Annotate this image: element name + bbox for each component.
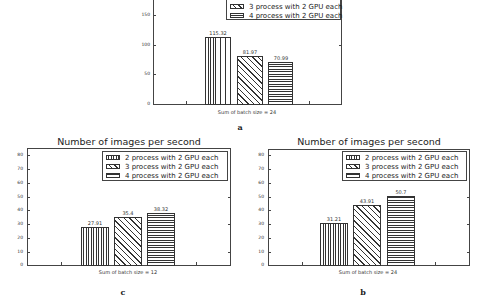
chart-b-ytick-mark xyxy=(268,183,271,184)
chart-c-ytick: 40 xyxy=(9,207,23,212)
chart-a-xtick-mark xyxy=(186,101,187,104)
chart-c-ytick-mark xyxy=(27,238,30,239)
chart-b-ytick-mark xyxy=(268,169,271,170)
chart-c-value-label: 27.91 xyxy=(80,220,110,226)
legend-entry: 4 process with 2 GPU each xyxy=(106,171,224,180)
chart-b-ytick: 60 xyxy=(250,180,264,185)
legend-label: 4 process with 2 GPU each xyxy=(249,12,342,20)
legend-label: 4 process with 2 GPU each xyxy=(125,172,218,180)
chart-b-ytick: 70 xyxy=(250,166,264,171)
legend-label: 3 process with 2 GPU each xyxy=(365,163,458,171)
chart-c-value-label: 35.4 xyxy=(113,210,143,216)
chart-c-ytick-mark xyxy=(228,197,231,198)
legend-entry: 4 process with 2 GPU each xyxy=(346,171,463,180)
chart-b-ytick-mark xyxy=(268,155,271,156)
chart-b-ytick: 40 xyxy=(250,207,264,212)
legend-swatch-horizontal xyxy=(230,13,244,18)
chart-b-value-label: 43.91 xyxy=(352,198,382,204)
legend-entry: 3 process with 2 GPU each xyxy=(346,162,463,171)
legend-entry: 2 process with 2 GPU each xyxy=(106,153,224,162)
chart-b-xtick-mark xyxy=(435,262,436,265)
chart-c-bar-2-process xyxy=(81,227,109,266)
chart-a-ytick-mark xyxy=(153,74,156,75)
chart-a-bar-4-process xyxy=(268,62,293,105)
chart-c-ytick-mark xyxy=(228,224,231,225)
chart-c-xtick-mark xyxy=(196,262,197,265)
chart-b-xlabel: Sum of batch size = 24 xyxy=(318,269,418,275)
chart-b-bar-4-process xyxy=(387,196,415,266)
chart-b-caption: b xyxy=(353,287,373,297)
chart-a-ytick-mark xyxy=(153,45,156,46)
legend-entry: 3 process with 2 GPU each xyxy=(106,162,224,171)
chart-a-xtick-mark xyxy=(309,101,310,104)
chart-a-ytick-mark xyxy=(339,45,342,46)
chart-c-xtick-mark xyxy=(61,262,62,265)
chart-c-ytick-mark xyxy=(27,224,30,225)
chart-a-value-label: 70.99 xyxy=(266,55,296,61)
chart-b-xtick-mark xyxy=(302,262,303,265)
chart-b-ytick-mark xyxy=(467,197,470,198)
legend-entry: 2 process with 2 GPU each xyxy=(346,153,463,162)
chart-b-ytick: 50 xyxy=(250,194,264,199)
chart-a-ytick: 150 xyxy=(136,12,150,17)
chart-b-value-label: 31.21 xyxy=(319,216,349,222)
chart-c-ytick-mark xyxy=(27,197,30,198)
legend-swatch-diagonal xyxy=(230,4,244,9)
chart-c-value-label: 38.32 xyxy=(146,206,176,212)
chart-c-ytick-mark xyxy=(27,155,30,156)
chart-b-ytick: 80 xyxy=(250,152,264,157)
chart-c-ytick: 30 xyxy=(9,221,23,226)
chart-c-ytick-mark xyxy=(27,169,30,170)
legend-swatch-diagonal xyxy=(346,164,360,169)
legend-swatch-vertical xyxy=(106,155,120,160)
chart-b-ytick-mark xyxy=(268,238,271,239)
chart-c-ytick: 80 xyxy=(9,152,23,157)
chart-c-ytick: 0 xyxy=(9,262,23,267)
chart-a-ytick: 50 xyxy=(136,71,150,76)
chart-a-caption: a xyxy=(230,122,250,132)
chart-b-ytick: 20 xyxy=(250,235,264,240)
chart-c-ytick: 10 xyxy=(9,249,23,254)
chart-b-value-label: 50.7 xyxy=(386,189,416,195)
legend-swatch-vertical xyxy=(346,155,360,160)
chart-c-ytick: 60 xyxy=(9,180,23,185)
legend-label: 3 process with 2 GPU each xyxy=(249,3,342,11)
legend-entry: 3 process with 2 GPU each xyxy=(230,2,337,11)
legend-entry: 4 process with 2 GPU each xyxy=(230,11,337,20)
chart-b-ytick: 30 xyxy=(250,221,264,226)
chart-b-ytick-mark xyxy=(268,197,271,198)
legend-label: 4 process with 2 GPU each xyxy=(365,172,458,180)
chart-b-ytick: 0 xyxy=(250,262,264,267)
chart-b-ytick-mark xyxy=(268,210,271,211)
chart-a-ytick: 100 xyxy=(136,42,150,47)
chart-c-ytick-mark xyxy=(27,183,30,184)
chart-a-bar-2-process xyxy=(205,37,231,105)
chart-b-ytick-mark xyxy=(467,224,470,225)
chart-b-ytick-mark xyxy=(268,252,271,253)
legend-label: 2 process with 2 GPU each xyxy=(365,154,458,162)
chart-a-bar-3-process xyxy=(237,56,263,105)
legend-swatch-diagonal xyxy=(106,164,120,169)
legend-label: 2 process with 2 GPU each xyxy=(125,154,218,162)
chart-c-ytick: 70 xyxy=(9,166,23,171)
chart-c-ytick: 20 xyxy=(9,235,23,240)
chart-b-bar-3-process xyxy=(353,205,381,266)
chart-b-ytick-mark xyxy=(268,224,271,225)
chart-c-ytick-mark xyxy=(27,210,30,211)
chart-c-xlabel: Sum of batch size = 12 xyxy=(78,269,178,275)
legend-swatch-horizontal xyxy=(346,173,360,178)
chart-a-ytick: 0 xyxy=(136,101,150,106)
chart-b-bar-2-process xyxy=(320,223,348,266)
chart-c-ytick: 50 xyxy=(9,194,23,199)
chart-b-ytick: 10 xyxy=(250,249,264,254)
chart-c-ytick-mark xyxy=(27,252,30,253)
chart-b-ytick-mark xyxy=(467,252,470,253)
chart-b-legend: 2 process with 2 GPU each 3 process with… xyxy=(342,151,467,181)
chart-a-value-label: 81.97 xyxy=(235,49,265,55)
legend-label: 3 process with 2 GPU each xyxy=(125,163,218,171)
chart-c-title: Number of images per second xyxy=(27,136,231,147)
chart-c-caption: c xyxy=(113,287,133,297)
chart-a-xlabel: Sum of batch size = 24 xyxy=(197,109,297,115)
legend-swatch-horizontal xyxy=(106,173,120,178)
chart-c-legend: 2 process with 2 GPU each 3 process with… xyxy=(102,151,228,181)
